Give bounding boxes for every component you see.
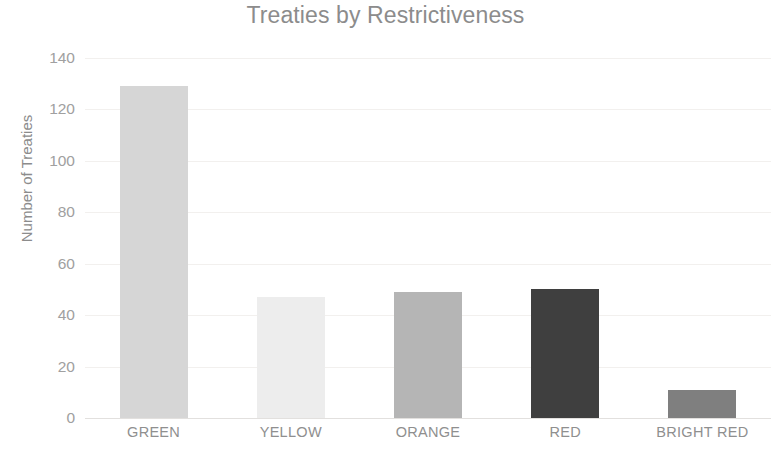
y-tick-label: 120	[31, 102, 75, 118]
y-tick-label: 100	[31, 153, 75, 169]
bar	[120, 86, 188, 418]
gridline	[85, 264, 771, 265]
gridline	[85, 109, 771, 110]
gridline	[85, 418, 771, 419]
y-tick-label: 0	[31, 410, 75, 426]
x-tick-label: ORANGE	[359, 424, 496, 440]
x-tick-label: BRIGHT RED	[634, 424, 771, 440]
gridline	[85, 58, 771, 59]
bar	[531, 289, 599, 418]
bar	[394, 292, 462, 418]
x-tick-label: YELLOW	[222, 424, 359, 440]
y-tick-label: 40	[31, 307, 75, 323]
x-tick-label: GREEN	[85, 424, 222, 440]
y-tick-label: 80	[31, 205, 75, 221]
y-tick-label: 20	[31, 359, 75, 375]
y-tick-label: 140	[31, 50, 75, 66]
plot-area	[85, 58, 771, 418]
y-tick-label: 60	[31, 256, 75, 272]
gridline	[85, 161, 771, 162]
gridline	[85, 212, 771, 213]
x-tick-label: RED	[497, 424, 634, 440]
bar	[257, 297, 325, 418]
chart-title: Treaties by Restrictiveness	[0, 2, 771, 29]
bar-chart: Treaties by Restrictiveness Number of Tr…	[0, 0, 771, 458]
bar	[668, 390, 736, 418]
